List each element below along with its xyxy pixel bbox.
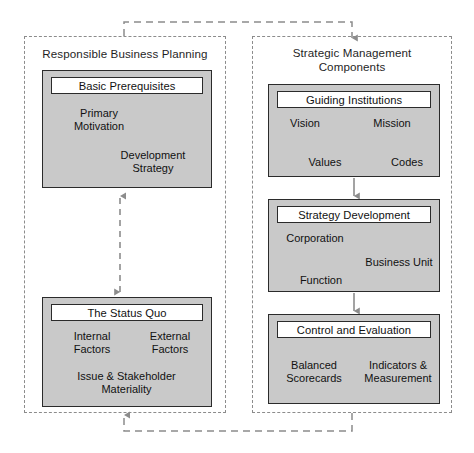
label-primary-motivation: Primary Motivation — [53, 107, 145, 133]
label-function: Function — [287, 274, 355, 287]
label-development-strategy: Development Strategy — [103, 149, 203, 175]
box-strategy-development[interactable]: Strategy Development Corporation Busines… — [268, 199, 440, 292]
box-header-strategy-development: Strategy Development — [277, 206, 431, 223]
connector-strategic-management-to-planning — [124, 413, 352, 431]
label-issue-stakeholder-materiality: Issue & Stakeholder Materiality — [49, 370, 204, 396]
box-the-status-quo[interactable]: The Status Quo Internal Factors External… — [42, 297, 212, 407]
label-external-factors: External Factors — [133, 330, 207, 356]
label-indicators-measurement: Indicators & Measurement — [357, 359, 439, 385]
box-guiding-institutions[interactable]: Guiding Institutions Vision Mission Valu… — [268, 84, 440, 177]
box-header-basic-prerequisites: Basic Prerequisites — [51, 77, 203, 94]
box-basic-prerequisites[interactable]: Basic Prerequisites Primary Motivation D… — [42, 70, 212, 188]
box-control-and-evaluation[interactable]: Control and Evaluation Balanced Scorecar… — [268, 314, 440, 404]
label-business-unit: Business Unit — [357, 256, 441, 269]
label-internal-factors: Internal Factors — [55, 330, 129, 356]
diagram-canvas: Responsible Business Planning Basic Prer… — [0, 0, 474, 453]
label-vision: Vision — [275, 117, 335, 130]
box-header-control-and-evaluation: Control and Evaluation — [277, 321, 431, 338]
box-header-guiding-institutions: Guiding Institutions — [277, 91, 431, 108]
panel-title-strategic-management-components: Strategic Management Components — [253, 46, 451, 73]
label-values: Values — [295, 156, 355, 169]
label-balanced-scorecards: Balanced Scorecards — [273, 359, 355, 385]
label-mission: Mission — [359, 117, 425, 130]
panel-title-responsible-business-planning: Responsible Business Planning — [25, 47, 225, 61]
label-corporation: Corporation — [273, 232, 357, 245]
box-header-the-status-quo: The Status Quo — [51, 304, 203, 321]
label-codes: Codes — [379, 156, 435, 169]
